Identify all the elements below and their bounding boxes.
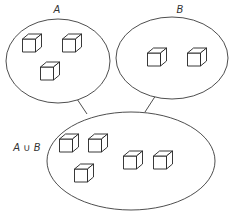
set-b-label: B	[177, 4, 184, 15]
cube-icon	[63, 34, 82, 52]
connector-a-to-union	[77, 99, 87, 114]
set-a-label: A	[53, 4, 61, 15]
cube-icon	[60, 134, 79, 152]
cube-icon	[188, 48, 207, 66]
connector-lines	[77, 95, 156, 114]
cube-icon	[75, 164, 94, 182]
cube-icon	[23, 34, 42, 52]
cube-icon	[124, 151, 143, 169]
cube-icon	[148, 48, 167, 66]
set-b-ellipse	[116, 17, 228, 99]
set-a-ellipse	[6, 19, 110, 103]
cube-icon	[154, 151, 173, 169]
set-union-diagram: A B A ∪ B	[0, 0, 233, 212]
set-union-label: A ∪ B	[12, 142, 41, 153]
cube-icon	[89, 134, 108, 152]
cube-icon	[41, 62, 60, 80]
connector-b-to-union	[145, 95, 156, 112]
